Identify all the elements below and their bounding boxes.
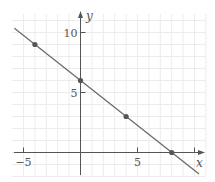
ticks: −55510 xyxy=(15,27,194,169)
data-point xyxy=(32,42,37,47)
y-axis-arrow-icon xyxy=(78,11,83,18)
data-point xyxy=(78,78,83,83)
y-axis-label: y xyxy=(85,9,93,23)
y-tick-label: 10 xyxy=(64,27,78,40)
x-tick-label: −5 xyxy=(15,156,31,169)
data-point xyxy=(124,114,129,119)
line-graph: −55510 x y xyxy=(0,0,215,182)
y-tick-label: 5 xyxy=(71,87,78,100)
x-tick-label: 5 xyxy=(134,156,141,169)
data-point xyxy=(169,150,174,155)
x-axis-label: x xyxy=(196,156,203,170)
x-axis-arrow-icon xyxy=(198,150,205,155)
